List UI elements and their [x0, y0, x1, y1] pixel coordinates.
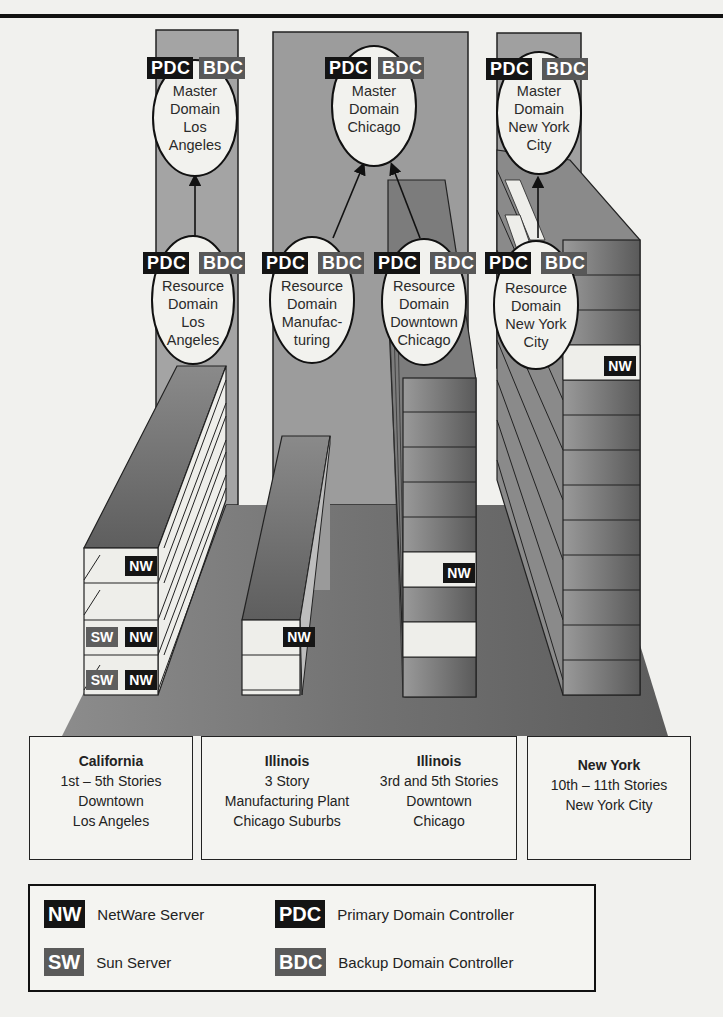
- bdc-tag-resource-nyc: BDC: [541, 252, 587, 274]
- location-box-illinois: Illinois 3 Story Manufacturing Plant Chi…: [201, 736, 517, 860]
- location-state: Illinois: [364, 751, 514, 771]
- sun-server-badge: SW: [86, 670, 118, 690]
- pdc-tag-master-nyc: PDC: [486, 58, 532, 80]
- pdc-tag-resource-nyc: PDC: [485, 252, 531, 274]
- master-domain-chicago-label: Master Domain Chicago: [334, 82, 414, 136]
- bdc-tag-master-nyc: BDC: [542, 58, 588, 80]
- legend: NW NetWare Server SW Sun Server PDC Prim…: [28, 884, 596, 992]
- master-domain-la-label: Master Domain Los Angeles: [155, 82, 235, 154]
- resource-domain-mfg-label: Resource Domain Manufac- turing: [272, 277, 352, 349]
- netware-server-badge: NW: [125, 670, 157, 690]
- pdc-tag-resource-chicago: PDC: [374, 252, 420, 274]
- diagram-scene: [0, 0, 723, 1017]
- location-state: New York: [528, 755, 690, 775]
- netware-server-badge: NW: [604, 356, 636, 376]
- bdc-tag-master-la: BDC: [199, 57, 245, 79]
- resource-domain-chicago-label: Resource Domain Downtown Chicago: [382, 277, 466, 349]
- pdc-tag-master-la: PDC: [147, 57, 193, 79]
- bdc-tag-master-chicago: BDC: [378, 57, 424, 79]
- bdc-tag-resource-la: BDC: [199, 252, 245, 274]
- legend-item-bdc: BDC Backup Domain Controller: [275, 948, 513, 976]
- netware-server-badge: NW: [443, 563, 475, 583]
- location-illinois-downtown: Illinois 3rd and 5th Stories Downtown Ch…: [364, 751, 514, 831]
- location-illinois-mfg: Illinois 3 Story Manufacturing Plant Chi…: [212, 751, 362, 831]
- netware-server-badge: NW: [125, 627, 157, 647]
- pdc-icon: PDC: [275, 900, 325, 928]
- location-state: California: [30, 751, 192, 771]
- bdc-tag-resource-mfg: BDC: [318, 252, 364, 274]
- sun-server-badge: SW: [86, 627, 118, 647]
- bdc-tag-resource-chicago: BDC: [430, 252, 476, 274]
- netware-icon: NW: [44, 900, 85, 928]
- netware-server-badge: NW: [125, 556, 157, 576]
- netware-server-badge: NW: [283, 627, 315, 647]
- sun-server-icon: SW: [44, 948, 84, 976]
- location-box-california: California 1st – 5th Stories Downtown Lo…: [29, 736, 193, 860]
- resource-domain-nyc-label: Resource Domain New York City: [496, 279, 576, 351]
- pdc-tag-resource-mfg: PDC: [262, 252, 308, 274]
- location-box-new-york: New York 10th – 11th Stories New York Ci…: [527, 736, 691, 860]
- legend-item-pdc: PDC Primary Domain Controller: [275, 900, 514, 928]
- legend-item-sun: SW Sun Server: [44, 948, 171, 976]
- resource-domain-la-label: Resource Domain Los Angeles: [153, 277, 233, 349]
- bdc-icon: BDC: [275, 948, 326, 976]
- master-domain-nyc-label: Master Domain New York City: [499, 82, 579, 154]
- legend-item-netware: NW NetWare Server: [44, 900, 204, 928]
- location-state: Illinois: [212, 751, 362, 771]
- pdc-tag-resource-la: PDC: [143, 252, 189, 274]
- pdc-tag-master-chicago: PDC: [325, 57, 371, 79]
